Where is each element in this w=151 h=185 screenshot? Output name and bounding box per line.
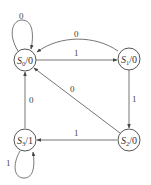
- transition-label-s1-s2: 1: [132, 94, 137, 104]
- transition-s2-s0: [34, 68, 120, 133]
- transition-label-s3-s0: 0: [29, 95, 34, 105]
- transition-label-s0-s0: 0: [19, 11, 24, 21]
- state-diagram: 0 1 0 1 0 1 0 1 S0/0 S1/0 S2/0 S3/1: [0, 0, 151, 185]
- transition-label-s2-s0: 0: [70, 84, 75, 94]
- svg-text:S0/0: S0/0: [17, 55, 33, 67]
- state-s3: S3/1: [14, 129, 36, 151]
- svg-text:S3/1: S3/1: [17, 135, 33, 147]
- state-s2: S2/0: [118, 129, 140, 151]
- transition-label-s1-s0: 0: [74, 29, 79, 39]
- transition-label-s2-s3: 1: [74, 128, 79, 138]
- transition-s0-s0: [12, 20, 32, 51]
- state-s1: S1/0: [118, 48, 140, 70]
- svg-text:S1/0: S1/0: [121, 54, 137, 66]
- svg-text:S2/0: S2/0: [121, 135, 137, 147]
- state-s0: S0/0: [14, 49, 36, 71]
- transition-label-s0-s1: 1: [74, 48, 79, 58]
- transition-label-s3-s3: 1: [6, 158, 11, 168]
- transition-s3-s3: [15, 151, 34, 178]
